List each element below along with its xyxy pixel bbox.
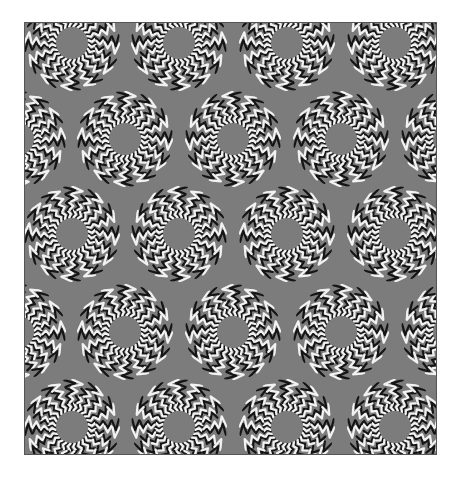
illusion-disk bbox=[131, 186, 227, 282]
illusion-frame bbox=[24, 22, 437, 455]
illusion-disk bbox=[185, 284, 281, 380]
illusion-disk bbox=[185, 91, 281, 187]
illusion-disk bbox=[293, 91, 389, 187]
illusion-pattern bbox=[24, 22, 437, 455]
illusion-disk bbox=[293, 284, 389, 380]
illusion-disk bbox=[239, 186, 335, 282]
illusion-disk bbox=[77, 284, 173, 380]
illusion-disk bbox=[24, 186, 120, 282]
illusion-disk bbox=[77, 91, 173, 187]
